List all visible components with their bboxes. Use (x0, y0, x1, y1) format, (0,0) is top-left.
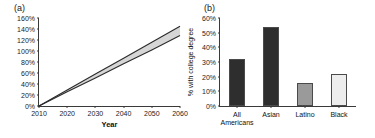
y-tick-label-a: 40% (21, 81, 35, 88)
x-tick-label-a: 2040 (116, 110, 132, 117)
bar-plot-area: % with college degree 0% 10% 20% 30% 40%… (220, 18, 356, 106)
upper-bound-line (39, 26, 180, 106)
x-axis-line-b (219, 106, 356, 107)
bar-latino[interactable] (297, 83, 313, 106)
line-plot-area: 0% 20% 40% 60% 80% 100% 120% 140% 160% 2… (39, 18, 180, 106)
y-tick-label-a: 120% (17, 37, 35, 44)
panel-a-line-chart: (a) 0% 20% 40% 60% 80% 100% 120% 140% 16… (0, 0, 188, 138)
y-tick-label-b: 40% (202, 44, 216, 51)
y-tick-label-a: 160% (17, 15, 35, 22)
y-tick-label-b: 60% (202, 15, 216, 22)
bar-asian[interactable] (263, 27, 279, 106)
bar-black[interactable] (331, 74, 347, 106)
x-tick-label-a: 2030 (88, 110, 104, 117)
bar-category-label: All Americans (220, 111, 253, 127)
x-tick-label-a: 2060 (172, 110, 188, 117)
y-tick-label-b: 50% (202, 29, 216, 36)
x-tick-label-a: 2050 (144, 110, 160, 117)
y-tick-label-b: 30% (202, 59, 216, 66)
bar-all-americans[interactable] (229, 59, 245, 106)
bar-category-label: Asian (262, 111, 280, 119)
y-tick-label-a: 80% (21, 59, 35, 66)
bar-category-label: Black (330, 111, 347, 119)
x-axis-line-a (38, 106, 180, 107)
lower-bound-line (39, 36, 180, 106)
y-tick-label-b: 20% (202, 73, 216, 80)
y-tick-label-a: 20% (21, 92, 35, 99)
y-tick-label-b: 0% (206, 103, 216, 110)
bar-category-label: Latino (295, 111, 314, 119)
y-tick-label-a: 140% (17, 26, 35, 33)
x-tick-label-a: 2010 (31, 110, 47, 117)
y-tick-label-a: 100% (17, 48, 35, 55)
y-tick-label-a: 0% (25, 103, 35, 110)
line-series-svg (39, 18, 180, 106)
y-tick-label-b: 10% (202, 88, 216, 95)
y-axis-title-b: % with college degree (187, 28, 194, 97)
panel-b-label: (b) (204, 3, 215, 13)
panel-b-bar-chart: (b) % with college degree 0% 10% 20% 30%… (188, 0, 375, 138)
figure-container: (a) 0% 20% 40% 60% 80% 100% 120% 140% 16… (0, 0, 375, 138)
x-axis-title-a: Year (102, 120, 118, 129)
y-tick-label-a: 60% (21, 70, 35, 77)
x-tick-label-a: 2020 (59, 110, 75, 117)
panel-a-label: (a) (14, 3, 25, 13)
